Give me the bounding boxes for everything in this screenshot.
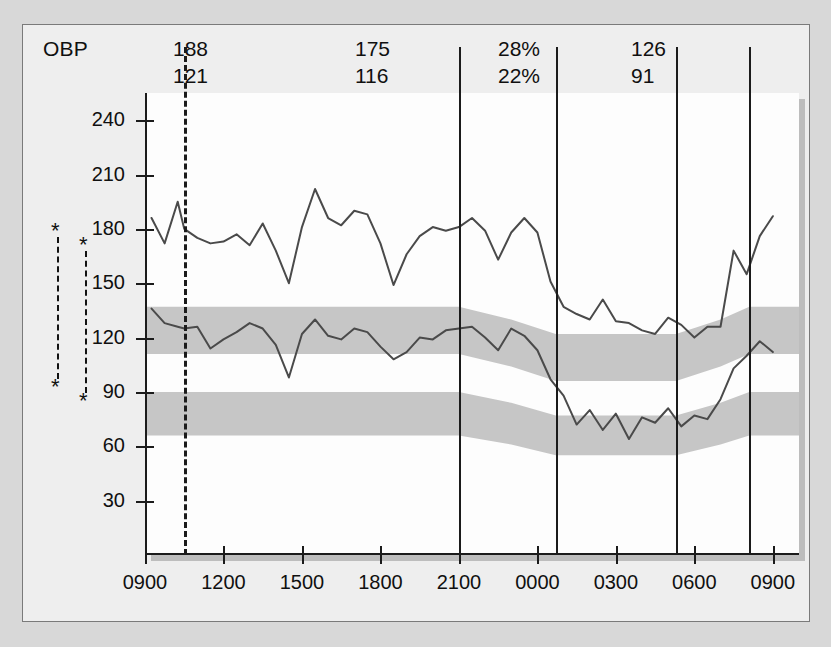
y-tick-label: 60: [103, 434, 125, 457]
obp-label: OBP: [43, 37, 88, 61]
period-divider: [459, 47, 461, 555]
chart-canvas: [145, 93, 799, 555]
office-bp-1-lower: 121: [173, 62, 208, 89]
period-divider: [749, 47, 751, 555]
dip-percent-upper: 28%: [498, 35, 540, 62]
y-tick-label: 240: [92, 108, 125, 131]
x-tick-label: 1800: [358, 571, 403, 594]
asterisk-icon: *: [51, 225, 60, 237]
office-bp-2: 175116: [355, 35, 390, 89]
x-tick: [537, 546, 539, 564]
period-divider-dashed: [184, 47, 187, 555]
dashed-connector: [85, 251, 87, 393]
x-tick-label: 0900: [751, 571, 796, 594]
office-bp-2-lower: 116: [355, 62, 390, 89]
office-bp-3-lower: 91: [631, 62, 666, 89]
x-tick-label: 1200: [201, 571, 246, 594]
y-tick: 30: [136, 501, 154, 503]
asterisk-icon: *: [51, 381, 60, 393]
y-tick: 90: [136, 392, 154, 394]
x-tick: [694, 546, 696, 564]
x-tick-label: 0900: [123, 571, 168, 594]
y-tick-label: 120: [92, 326, 125, 349]
dip-percent-lower: 22%: [498, 62, 540, 89]
range-marker-group: * * * *: [51, 221, 129, 393]
y-tick: 150: [136, 283, 154, 285]
dashed-connector: [57, 237, 59, 379]
asterisk-icon: *: [79, 239, 88, 251]
range-marker-diastolic: * *: [79, 235, 93, 407]
asterisk-icon: *: [79, 395, 88, 407]
y-tick: 60: [136, 446, 154, 448]
header-readouts: OBP 18812117511628%22%12691: [23, 25, 809, 87]
report-card: OBP 18812117511628%22%12691 * * * * 3060…: [22, 24, 810, 622]
x-tick: [302, 546, 304, 564]
diastolic-normal-band: [145, 392, 799, 455]
office-bp-3: 12691: [631, 35, 666, 89]
x-tick-label: 1500: [280, 571, 325, 594]
office-bp-1: 188121: [173, 35, 208, 89]
x-tick-label: 2100: [437, 571, 482, 594]
office-bp-2-upper: 175: [355, 35, 390, 62]
x-tick-label: 0300: [594, 571, 639, 594]
x-tick: [223, 546, 225, 564]
systolic-normal-band: [145, 307, 799, 381]
y-tick-label: 210: [92, 163, 125, 186]
y-tick-label: 30: [103, 489, 125, 512]
y-tick: 180: [136, 229, 154, 231]
x-tick: [145, 546, 147, 564]
x-tick-label: 0000: [515, 571, 560, 594]
y-tick: 240: [136, 120, 154, 122]
x-tick: [380, 546, 382, 564]
period-divider: [676, 47, 678, 555]
y-tick-label: 180: [92, 217, 125, 240]
dip-percent: 28%22%: [498, 35, 540, 89]
x-axis: [145, 553, 799, 555]
period-divider: [556, 47, 558, 555]
x-tick: [773, 546, 775, 564]
page-root: OBP 18812117511628%22%12691 * * * * 3060…: [0, 0, 831, 647]
y-tick: 120: [136, 338, 154, 340]
office-bp-1-upper: 188: [173, 35, 208, 62]
range-marker-systolic: * *: [51, 221, 65, 393]
x-tick-label: 0600: [672, 571, 717, 594]
office-bp-3-upper: 126: [631, 35, 666, 62]
y-tick: 210: [136, 175, 154, 177]
y-tick-label: 150: [92, 271, 125, 294]
y-tick-label: 90: [103, 380, 125, 403]
bp-chart: 306090120150180210240: [145, 93, 799, 555]
x-tick: [616, 546, 618, 564]
y-axis: [145, 93, 147, 555]
